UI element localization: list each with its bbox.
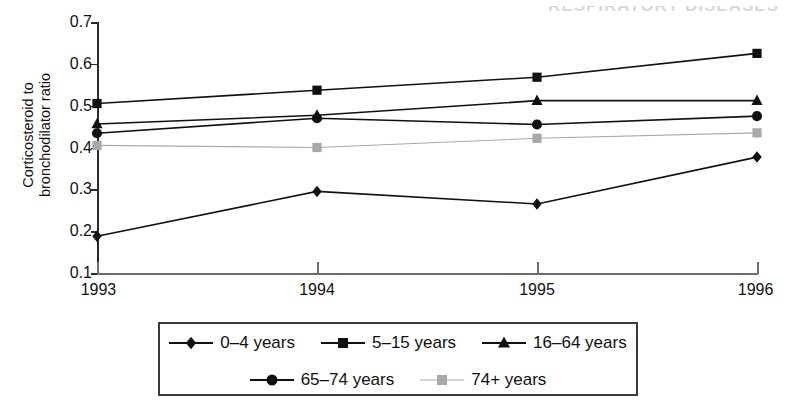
series-16-64-years: [91, 95, 762, 129]
legend-item-16-64-years[interactable]: 16–64 years: [482, 333, 627, 353]
data-point-square: [752, 128, 761, 137]
series-line: [97, 116, 757, 133]
legend-marker-circle: [250, 372, 294, 388]
data-point-diamond: [532, 198, 541, 210]
legend-item-0-4-years[interactable]: 0–4 years: [169, 333, 295, 353]
data-point-square: [532, 73, 541, 82]
series-0-4-years: [92, 151, 761, 242]
x-tick-label: 1996: [738, 281, 774, 299]
plot-area: [97, 22, 757, 273]
chart-figure: RESPIRATORY DISEASES Corticosteroid to b…: [0, 0, 797, 411]
y-tick-label: 0.5: [70, 97, 92, 115]
legend-row-2: 65–74 years74+ years: [160, 361, 636, 398]
y-tick-label: 0.6: [70, 55, 92, 73]
data-point-square: [437, 375, 447, 385]
cut-off-header-text: RESPIRATORY DISEASES: [548, 0, 779, 16]
series-74-years: [92, 128, 761, 152]
data-point-triangle: [498, 336, 510, 347]
chart-legend: 0–4 years5–15 years16–64 years 65–74 yea…: [158, 322, 638, 396]
data-point-diamond: [312, 186, 321, 198]
legend-label: 16–64 years: [533, 333, 627, 353]
data-point-diamond: [752, 151, 761, 163]
x-tick-label: 1993: [81, 281, 117, 299]
data-point-triangle: [531, 95, 542, 105]
data-point-square: [92, 99, 101, 108]
data-point-square: [92, 141, 101, 150]
legend-marker-diamond: [169, 335, 213, 351]
legend-row-1: 0–4 years5–15 years16–64 years: [160, 324, 636, 361]
y-tick-label: 0.2: [70, 222, 92, 240]
data-point-circle: [92, 128, 102, 138]
series-5-15-years: [92, 49, 761, 108]
legend-item-5-15-years[interactable]: 5–15 years: [321, 333, 456, 353]
x-tick-label: 1995: [519, 281, 555, 299]
x-tick-label: 1994: [299, 281, 335, 299]
legend-label: 65–74 years: [301, 370, 395, 390]
legend-marker-square: [321, 335, 365, 351]
series-line: [97, 53, 757, 103]
series-65-74-years: [92, 111, 762, 138]
data-point-square: [532, 134, 541, 143]
legend-label: 5–15 years: [372, 333, 456, 353]
y-tick-label: 0.1: [70, 264, 92, 282]
data-point-circle: [266, 374, 277, 385]
series-line: [97, 133, 757, 148]
legend-item-74+-years[interactable]: 74+ years: [420, 370, 546, 390]
x-tick-mark: [757, 262, 759, 274]
y-tick-label: 0.7: [70, 13, 92, 31]
legend-label: 74+ years: [471, 370, 546, 390]
legend-item-65-74-years[interactable]: 65–74 years: [250, 370, 395, 390]
data-point-square: [312, 143, 321, 152]
data-point-square: [752, 49, 761, 58]
data-point-circle: [532, 119, 542, 129]
legend-marker-square: [420, 372, 464, 388]
x-axis-line: [97, 273, 758, 275]
series-line: [97, 157, 757, 236]
data-point-diamond: [186, 336, 196, 349]
y-tick-label: 0.3: [70, 180, 92, 198]
y-tick-label: 0.4: [70, 139, 92, 157]
legend-marker-triangle: [482, 335, 526, 351]
data-point-circle: [312, 113, 322, 123]
data-point-circle: [752, 111, 762, 121]
y-tick-labels: 0.70.60.50.40.30.20.1: [48, 0, 92, 275]
data-point-square: [312, 86, 321, 95]
data-point-square: [338, 338, 348, 348]
legend-label: 0–4 years: [220, 333, 295, 353]
data-point-triangle: [751, 95, 762, 105]
